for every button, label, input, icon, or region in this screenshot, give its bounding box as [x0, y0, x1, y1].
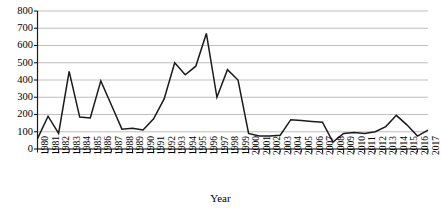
x-axis-tick-label: 1988 — [126, 136, 136, 155]
x-axis-tick-label: 2000 — [252, 136, 262, 155]
x-axis-tick-label: 2014 — [400, 136, 410, 155]
x-axis-tick-label: 2007 — [326, 136, 336, 155]
x-axis-tick-label: 1995 — [199, 136, 209, 155]
x-axis-tick-label: 2013 — [389, 136, 399, 155]
x-axis-tick-label: 1984 — [83, 136, 93, 155]
y-axis-tick-label: 100 — [5, 127, 33, 138]
x-axis-tick-label: 1992 — [168, 136, 178, 155]
data-series-line — [38, 33, 429, 142]
x-axis-title: Year — [0, 192, 441, 204]
x-axis-tick-label: 2006 — [316, 136, 326, 155]
x-axis-tick-label: 2016 — [421, 136, 431, 155]
x-axis-tick-label: 1989 — [136, 136, 146, 155]
x-axis-tick-label: 1996 — [210, 136, 220, 155]
y-axis-tick-label: 0 — [5, 144, 33, 155]
x-axis-tick-label: 2008 — [337, 136, 347, 155]
x-axis-tick-label: 1999 — [242, 136, 252, 155]
x-axis-tick-label: 1983 — [73, 136, 83, 155]
x-axis-tick-label: 2003 — [284, 136, 294, 155]
x-axis-tick-label: 1981 — [52, 136, 62, 155]
x-axis-tick-label: 1986 — [104, 136, 114, 155]
x-axis-tick-label: 2002 — [273, 136, 283, 155]
y-axis-tick-label: 600 — [5, 40, 33, 51]
y-axis-tick-label: 200 — [5, 109, 33, 120]
y-axis-tick-labels: 0100200300400500600700800 — [0, 0, 33, 212]
line-chart: 0100200300400500600700800 19801981198219… — [0, 0, 441, 212]
y-axis-tick-label: 500 — [5, 58, 33, 69]
x-axis-tick-label: 2011 — [368, 136, 378, 155]
x-axis-tick-label: 2005 — [305, 136, 315, 155]
x-axis-tick-label: 1987 — [115, 136, 125, 155]
x-axis-tick-label: 2012 — [379, 136, 389, 155]
y-axis-tick-label: 300 — [5, 92, 33, 103]
x-axis-tick-label: 1993 — [178, 136, 188, 155]
x-axis-tick-label: 1982 — [62, 136, 72, 155]
x-axis-tick-label: 1991 — [157, 136, 167, 155]
y-axis-tick-label: 400 — [5, 75, 33, 86]
y-axis-tick-label: 700 — [5, 23, 33, 34]
x-axis-tick-label: 2004 — [294, 136, 304, 155]
x-axis-tick-label: 1990 — [147, 136, 157, 155]
x-axis-tick-label: 1980 — [41, 136, 51, 155]
x-axis-tick-label: 2009 — [347, 136, 357, 155]
x-axis-tick-label: 2001 — [263, 136, 273, 155]
x-axis-tick-label: 1997 — [221, 136, 231, 155]
x-axis-tick-label: 1994 — [189, 136, 199, 155]
x-axis-tick-label: 2017 — [432, 136, 441, 155]
x-axis-tick-label: 2015 — [410, 136, 420, 155]
gridlines — [38, 11, 429, 149]
y-axis-tick-label: 800 — [5, 6, 33, 17]
x-axis-tick-label: 1998 — [231, 136, 241, 155]
chart-plot-area — [0, 0, 441, 212]
x-axis-tick-label: 1985 — [94, 136, 104, 155]
x-axis-tick-label: 2010 — [358, 136, 368, 155]
